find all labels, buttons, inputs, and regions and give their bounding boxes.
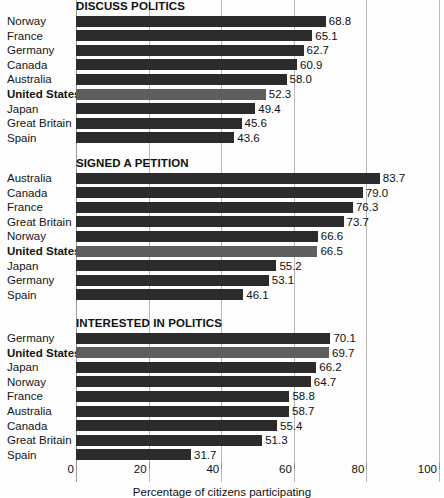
category-label: Great Britain bbox=[7, 117, 72, 130]
category-label: Spain bbox=[7, 132, 36, 145]
x-tick-label-100: 100 bbox=[418, 463, 439, 475]
value-label: 68.8 bbox=[329, 15, 351, 28]
panel-rows: Australia83.7Canada79.0France76.3Great B… bbox=[0, 172, 444, 303]
bar-row: Spain31.7 bbox=[0, 449, 444, 464]
bar bbox=[76, 275, 269, 286]
bar-row: Germany62.7 bbox=[0, 44, 444, 59]
category-label: Germany bbox=[7, 44, 54, 57]
category-label: Australia bbox=[7, 73, 52, 86]
bar-row: Canada79.0 bbox=[0, 187, 444, 202]
bar bbox=[76, 231, 318, 242]
value-label: 31.7 bbox=[194, 449, 216, 462]
bar-row: Norway64.7 bbox=[0, 376, 444, 391]
category-label: United States bbox=[7, 347, 81, 360]
bar bbox=[76, 216, 344, 227]
bar-row: France65.1 bbox=[0, 30, 444, 45]
bar bbox=[76, 30, 312, 41]
category-label: Japan bbox=[7, 260, 38, 273]
bar bbox=[76, 449, 191, 460]
bar bbox=[76, 173, 380, 184]
bar bbox=[76, 289, 243, 300]
category-label: France bbox=[7, 30, 43, 43]
bar-row: Australia58.7 bbox=[0, 405, 444, 420]
category-label: Germany bbox=[7, 332, 54, 345]
bar bbox=[76, 59, 297, 70]
bar-row: France58.8 bbox=[0, 390, 444, 405]
bar-row: Great Britain73.7 bbox=[0, 216, 444, 231]
bar-row: United States52.3 bbox=[0, 88, 444, 103]
bar-row: United States69.7 bbox=[0, 347, 444, 362]
value-label: 64.7 bbox=[314, 376, 336, 389]
bar bbox=[76, 45, 304, 56]
bar-row: Canada55.4 bbox=[0, 420, 444, 435]
category-label: Norway bbox=[7, 15, 46, 28]
bar bbox=[76, 89, 266, 100]
bar-row: Japan49.4 bbox=[0, 103, 444, 118]
value-label: 62.7 bbox=[307, 44, 329, 57]
category-label: Germany bbox=[7, 274, 54, 287]
bar-row: Australia83.7 bbox=[0, 172, 444, 187]
chart-panel: INTERESTED IN POLITICSGermany70.1United … bbox=[0, 317, 444, 462]
category-label: Canada bbox=[7, 187, 47, 200]
bar bbox=[76, 347, 329, 358]
x-tick-label-60: 60 bbox=[279, 463, 294, 475]
bar bbox=[76, 187, 363, 198]
x-tick-label-0: 0 bbox=[68, 463, 76, 475]
bar bbox=[76, 376, 311, 387]
value-label: 76.3 bbox=[356, 201, 378, 214]
category-label: Great Britain bbox=[7, 216, 72, 229]
value-label: 51.3 bbox=[265, 434, 287, 447]
category-label: Australia bbox=[7, 405, 52, 418]
x-tick-20 bbox=[149, 463, 150, 469]
bar bbox=[76, 333, 330, 344]
value-label: 58.0 bbox=[290, 73, 312, 86]
value-label: 70.1 bbox=[333, 332, 355, 345]
bar bbox=[76, 246, 317, 257]
bar bbox=[76, 420, 277, 431]
bar-row: United States66.5 bbox=[0, 245, 444, 260]
value-label: 43.6 bbox=[237, 132, 259, 145]
bar-row: Spain46.1 bbox=[0, 289, 444, 304]
panel-rows: Norway68.8France65.1Germany62.7Canada60.… bbox=[0, 15, 444, 146]
bar-row: Japan55.2 bbox=[0, 260, 444, 275]
value-label: 55.4 bbox=[280, 420, 302, 433]
x-tick-0 bbox=[76, 463, 77, 469]
bar-row: Canada60.9 bbox=[0, 59, 444, 74]
bar bbox=[76, 362, 316, 373]
value-label: 45.6 bbox=[245, 117, 267, 130]
bar bbox=[76, 435, 262, 446]
bar bbox=[76, 118, 242, 129]
value-label: 66.5 bbox=[320, 245, 342, 258]
category-label: Canada bbox=[7, 420, 47, 433]
bar-row: Norway66.6 bbox=[0, 230, 444, 245]
bar-row: Germany70.1 bbox=[0, 332, 444, 347]
x-axis: 020406080100 bbox=[0, 463, 444, 483]
category-label: Japan bbox=[7, 361, 38, 374]
value-label: 66.6 bbox=[321, 230, 343, 243]
value-label: 55.2 bbox=[279, 260, 301, 273]
bar-row: Japan66.2 bbox=[0, 361, 444, 376]
category-label: Spain bbox=[7, 289, 36, 302]
value-label: 65.1 bbox=[315, 30, 337, 43]
category-label: France bbox=[7, 201, 43, 214]
value-label: 46.1 bbox=[246, 289, 268, 302]
category-label: France bbox=[7, 390, 43, 403]
x-tick-80 bbox=[366, 463, 367, 469]
x-axis-title: Percentage of citizens participating bbox=[0, 486, 444, 498]
bar-row: France76.3 bbox=[0, 201, 444, 216]
panel-title: DISCUSS POLITICS bbox=[76, 0, 185, 12]
bar-row: Great Britain51.3 bbox=[0, 434, 444, 449]
bar-row: Australia58.0 bbox=[0, 73, 444, 88]
x-tick-label-40: 40 bbox=[206, 463, 221, 475]
bar bbox=[76, 132, 234, 143]
value-label: 58.7 bbox=[292, 405, 314, 418]
bar-row: Spain43.6 bbox=[0, 132, 444, 147]
x-tick-40 bbox=[221, 463, 222, 469]
value-label: 58.8 bbox=[292, 390, 314, 403]
value-label: 66.2 bbox=[319, 361, 341, 374]
chart-panel: DISCUSS POLITICSNorway68.8France65.1Germ… bbox=[0, 0, 444, 145]
value-label: 83.7 bbox=[383, 172, 405, 185]
x-tick-label-80: 80 bbox=[352, 463, 367, 475]
category-label: United States bbox=[7, 88, 81, 101]
